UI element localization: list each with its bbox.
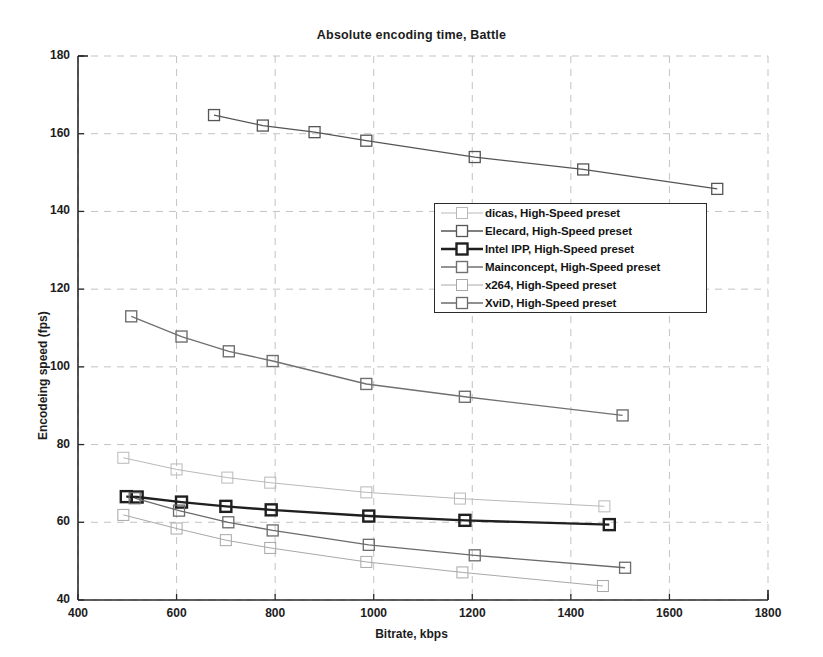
x-axis-label: Bitrate, kbps <box>0 627 823 641</box>
x-tick-label: 1600 <box>639 606 699 620</box>
x-tick-label: 1200 <box>442 606 502 620</box>
legend-marker-icon <box>439 241 485 257</box>
x-tick-label: 400 <box>48 606 108 620</box>
series-line <box>123 458 604 507</box>
y-tick-label: 40 <box>26 592 70 606</box>
x-tick-label: 1400 <box>541 606 601 620</box>
data-series <box>126 311 628 421</box>
y-tick-label: 100 <box>26 359 70 373</box>
y-tick-label: 80 <box>26 437 70 451</box>
x-tick-label: 1800 <box>738 606 798 620</box>
series-line <box>214 115 717 189</box>
y-tick-label: 60 <box>26 514 70 528</box>
y-tick-label: 120 <box>26 281 70 295</box>
legend-marker-icon <box>439 295 485 311</box>
legend-item[interactable]: dicas, High-Speed preset <box>435 204 706 222</box>
legend-item[interactable]: Mainconcept, High-Speed preset <box>435 258 706 276</box>
series-line <box>135 498 625 568</box>
chart-legend: dicas, High-Speed presetElecard, High-Sp… <box>434 203 707 313</box>
legend-marker-icon <box>439 223 485 239</box>
legend-marker-icon <box>439 259 485 275</box>
y-tick-label: 180 <box>26 48 70 62</box>
legend-label: Elecard, High-Speed preset <box>485 225 632 237</box>
x-tick-label: 1000 <box>344 606 404 620</box>
figure-canvas: Absolute encoding time, Battle Encodeing… <box>0 0 823 657</box>
data-series <box>209 110 723 195</box>
y-axis-label: Encodeing speed (fps) <box>36 311 50 440</box>
x-tick-label: 600 <box>147 606 207 620</box>
legend-label: Intel IPP, High-Speed preset <box>485 243 634 255</box>
series-line <box>131 316 622 415</box>
legend-label: dicas, High-Speed preset <box>485 207 620 219</box>
legend-marker-icon <box>439 205 485 221</box>
data-series <box>121 491 615 530</box>
y-axis-label-wrapper: Encodeing speed (fps) <box>0 0 40 657</box>
legend-label: Mainconcept, High-Speed preset <box>485 261 660 273</box>
y-tick-label: 160 <box>26 126 70 140</box>
legend-item[interactable]: Intel IPP, High-Speed preset <box>435 240 706 258</box>
legend-label: XviD, High-Speed preset <box>485 297 616 309</box>
legend-item[interactable]: x264, High-Speed preset <box>435 276 706 294</box>
legend-label: x264, High-Speed preset <box>485 279 616 291</box>
y-tick-label: 140 <box>26 203 70 217</box>
plot-area <box>0 0 823 657</box>
x-tick-label: 800 <box>245 606 305 620</box>
legend-item[interactable]: Elecard, High-Speed preset <box>435 222 706 240</box>
legend-marker-icon <box>439 277 485 293</box>
legend-item[interactable]: XviD, High-Speed preset <box>435 294 706 312</box>
